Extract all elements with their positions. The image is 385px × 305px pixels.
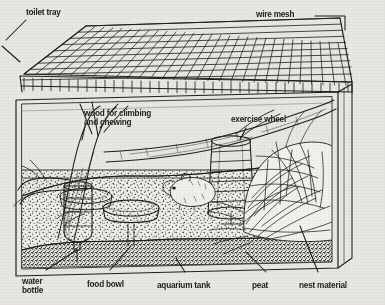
label-wood-line2: and chewing — [84, 119, 131, 128]
label-aquarium-tank: aquarium tank — [157, 281, 210, 290]
label-food-bowl: food bowl — [87, 280, 124, 289]
leader-toilet-tray-upper — [6, 20, 26, 40]
label-wire-mesh: wire mesh — [256, 10, 294, 19]
leader-toilet-tray-lower — [2, 46, 20, 62]
label-exercise-wheel: exercise wheel — [231, 115, 286, 124]
label-peat: peat — [252, 281, 268, 290]
wire-mesh-lid — [20, 18, 352, 93]
label-toilet-tray: toilet tray — [26, 8, 61, 17]
label-water-bottle-line2: bottle — [22, 287, 43, 296]
label-nest-material: nest material — [299, 281, 347, 290]
hamster-tank-illustration — [0, 0, 385, 305]
diagram-canvas: toilet tray wire mesh wood for climbing … — [0, 0, 385, 305]
